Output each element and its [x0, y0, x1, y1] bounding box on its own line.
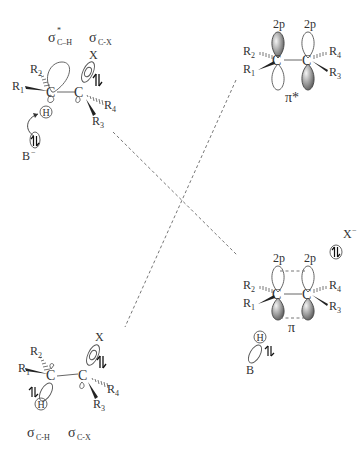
hashed-bond-r4	[87, 95, 103, 105]
svg-text:R: R	[18, 361, 26, 375]
svg-text:R: R	[92, 114, 100, 128]
correlation-line-sigmastar-to-pi	[113, 132, 237, 255]
svg-text:3: 3	[101, 404, 105, 413]
svg-text:C: C	[78, 368, 87, 383]
svg-text:2: 2	[38, 351, 42, 360]
svg-text:C: C	[46, 85, 55, 100]
svg-text:1: 1	[20, 86, 24, 95]
sigma-cx-lobe-icon	[79, 60, 97, 84]
svg-text:X: X	[89, 48, 98, 62]
svg-text:R: R	[30, 344, 38, 358]
leaving-group-lone-pair-lobe	[330, 245, 342, 259]
electron-pair-icon	[93, 74, 102, 86]
correlation-line-pistar-to-sigma	[125, 80, 236, 327]
svg-text:C-X: C-X	[98, 38, 112, 47]
svg-text:2: 2	[38, 69, 42, 78]
svg-text:B: B	[22, 149, 30, 163]
top-left-reactant-orbitals: σ * C–H σ C-X H C C R 1 R 2 X	[12, 26, 116, 163]
svg-text:3: 3	[337, 72, 341, 81]
svg-text:2: 2	[251, 285, 255, 294]
svg-text:2p: 2p	[273, 251, 285, 265]
svg-text:1: 1	[251, 69, 255, 78]
svg-text:2p: 2p	[304, 17, 316, 31]
svg-text:R: R	[243, 278, 251, 292]
svg-text:C: C	[302, 53, 311, 68]
svg-text:R: R	[93, 397, 101, 411]
svg-text:C–H: C–H	[57, 38, 72, 47]
svg-text:R: R	[329, 299, 337, 313]
svg-text:C: C	[272, 287, 281, 302]
svg-text:H: H	[43, 107, 50, 118]
svg-text:C-H: C-H	[36, 433, 50, 442]
sigma-ch-label: σ	[27, 425, 35, 440]
svg-text:R: R	[12, 79, 20, 93]
svg-text:X: X	[343, 227, 352, 241]
svg-text:R: R	[243, 44, 251, 58]
svg-text:3: 3	[337, 306, 341, 315]
correlation-lines	[113, 80, 237, 327]
bottom-right-pi: X − 2p 2p C C R 2 R 1 R 4 R 3 π H	[243, 226, 357, 377]
top-right-pi-star: 2p 2p C C R 2 R 1 R 4 R 3 π*	[243, 17, 341, 105]
svg-text:2p: 2p	[273, 17, 285, 31]
bottom-left-sigma-orbitals: X R 2 R 1 C C H R 4 R 3	[18, 330, 119, 442]
pi-star-label: π*	[285, 90, 299, 105]
svg-text:C: C	[272, 53, 281, 68]
svg-text:B: B	[246, 363, 254, 377]
svg-text:R: R	[107, 382, 115, 396]
svg-text:R: R	[243, 296, 251, 310]
svg-text:1: 1	[26, 368, 30, 377]
svg-text:R: R	[104, 98, 112, 112]
svg-text:H: H	[38, 399, 45, 410]
sigma-cx-label: σ	[89, 30, 97, 45]
svg-text:R: R	[329, 44, 337, 58]
svg-text:2p: 2p	[304, 251, 316, 265]
pi-label: π	[288, 320, 295, 335]
svg-text:−: −	[31, 148, 36, 157]
svg-text:4: 4	[115, 389, 119, 398]
svg-text:H: H	[257, 332, 264, 343]
svg-text:C: C	[302, 287, 311, 302]
svg-text:R: R	[243, 62, 251, 76]
svg-text:X: X	[95, 330, 104, 344]
svg-text:R: R	[329, 278, 337, 292]
svg-text:4: 4	[112, 105, 116, 114]
svg-text:R: R	[30, 62, 38, 76]
svg-text:R: R	[329, 65, 337, 79]
svg-text:4: 4	[337, 51, 341, 60]
svg-text:−: −	[352, 226, 357, 235]
base-lone-pair-lobe	[30, 132, 40, 148]
wedge-bond-r1	[25, 86, 48, 91]
svg-text:1: 1	[251, 303, 255, 312]
svg-text:3: 3	[100, 121, 104, 130]
svg-text:2: 2	[251, 51, 255, 60]
svg-text:C: C	[74, 85, 83, 100]
svg-text:C: C	[46, 368, 55, 383]
sigma-star-ch-label: σ	[48, 30, 56, 45]
svg-text:4: 4	[337, 285, 341, 294]
svg-text:C-X: C-X	[77, 433, 91, 442]
sigma-cx-label: σ	[68, 425, 76, 440]
orbital-correlation-diagram: σ * C–H σ C-X H C C R 1 R 2 X	[0, 0, 363, 453]
svg-text:*: *	[57, 26, 61, 35]
